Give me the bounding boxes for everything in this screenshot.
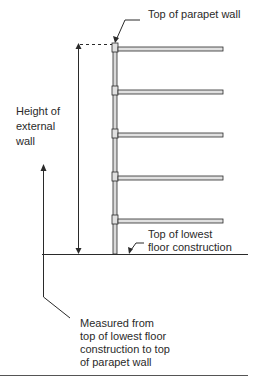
arrow-up-icon <box>76 43 82 49</box>
label-top-of-lowest-floor: Top of lowest floor construction <box>148 228 232 254</box>
floor-leader-line <box>131 243 144 250</box>
cropped-caption <box>20 377 220 382</box>
floor-slabs <box>112 43 223 224</box>
parapet-leader-line <box>117 20 140 38</box>
measured-arrow-up-icon <box>41 164 47 171</box>
label-measured-from: Measured from top of lowest floor constr… <box>80 317 170 369</box>
label-top-of-parapet: Top of parapet wall <box>148 8 240 21</box>
label-height-of-external-wall: Height of external wall <box>16 104 60 149</box>
arrow-down-icon <box>76 248 82 254</box>
parapet-leader-arrow-icon <box>113 36 119 43</box>
measured-leader-diagonal <box>44 297 71 318</box>
